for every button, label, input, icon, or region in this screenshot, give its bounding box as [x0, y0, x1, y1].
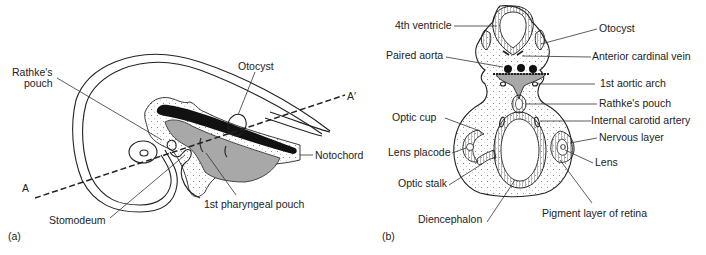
label-lens: Lens: [595, 156, 618, 168]
panel-a: Rathke's pouch Otocyst A′ Notochord A 1s…: [8, 55, 364, 243]
label-paired-aorta: Paired aorta: [386, 49, 443, 61]
label-pigment-layer-of-retina: Pigment layer of retina: [542, 207, 647, 219]
label-internal-carotid-artery: Internal carotid artery: [591, 114, 691, 126]
label-optic-cup: Optic cup: [392, 111, 437, 123]
paired-aorta-right: [529, 65, 537, 73]
panel-a-label: (a): [8, 230, 21, 242]
label-optic-stalk: Optic stalk: [398, 177, 448, 189]
label-otocyst-a: Otocyst: [238, 60, 274, 72]
lens-placode-b: [467, 144, 474, 151]
label-anterior-cardinal-vein: Anterior cardinal vein: [592, 50, 691, 62]
diencephalon-lumen: [501, 119, 539, 181]
panel-b-label: (b): [382, 230, 395, 242]
lens-placode: [140, 150, 148, 156]
label-rathkes-pouch-2: pouch: [24, 77, 53, 89]
label-1st-pharyngeal-pouch: 1st pharyngeal pouch: [204, 198, 305, 210]
label-4th-ventricle: 4th ventricle: [395, 19, 452, 31]
notochord-b: [517, 64, 525, 72]
label-lens-placode: Lens placode: [388, 146, 451, 158]
optic-vesicle: [129, 141, 157, 163]
label-1st-aortic-arch: 1st aortic arch: [600, 77, 666, 89]
label-a-prime: A′: [347, 90, 356, 102]
panel-b: 4th ventricle Paired aorta Optic cup Len…: [382, 6, 691, 242]
label-rathkes-pouch-b: Rathke's pouch: [599, 97, 671, 109]
leader-nervous-layer: [570, 138, 597, 143]
label-diencephalon: Diencephalon: [418, 213, 482, 225]
label-stomodeum: Stomodeum: [49, 214, 106, 226]
label-a: A: [22, 182, 29, 194]
leader-otocyst-b: [541, 29, 597, 44]
paired-aorta-left: [504, 65, 512, 73]
label-nervous-layer: Nervous layer: [599, 131, 664, 143]
label-notochord: Notochord: [315, 149, 364, 161]
rathkes-pouch-lumen: [516, 99, 523, 110]
embryo-diagram: Rathke's pouch Otocyst A′ Notochord A 1s…: [0, 0, 706, 255]
leader-stomodeum: [110, 155, 185, 218]
leader-pigment-layer: [560, 160, 592, 203]
lens-b: [561, 145, 566, 150]
label-otocyst-b: Otocyst: [599, 22, 635, 34]
